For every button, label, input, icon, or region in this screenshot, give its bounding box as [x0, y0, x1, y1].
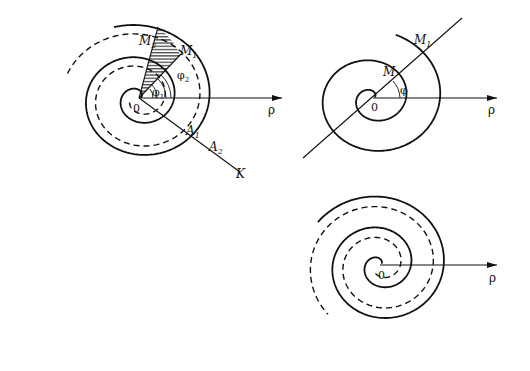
- arc-phi: [393, 81, 400, 98]
- a2-label: A2: [208, 140, 223, 156]
- diagram-top-right: 0 ρ M M1 φ: [303, 18, 497, 158]
- spiral-figure: 0 ρ M2 M1 φ1 φ2 A1 A2 K 0 ρ M M1 φ 0 ρ: [0, 0, 530, 371]
- phi-label: φ: [400, 84, 408, 97]
- rho-label: ρ: [488, 103, 495, 117]
- m1-label: M1: [179, 44, 197, 60]
- origin-label: 0: [378, 269, 385, 282]
- diagram-bottom-right: 0 ρ: [310, 197, 497, 318]
- phi1-label: φ1: [152, 86, 164, 101]
- rho-label: ρ: [489, 271, 496, 285]
- solid-spiral: [318, 197, 444, 318]
- origin-label: 0: [371, 101, 378, 114]
- k-label: K: [235, 167, 246, 181]
- diagram-left: 0 ρ M2 M1 φ1 φ2 A1 A2 K: [66, 25, 282, 181]
- figure-svg: 0 ρ M2 M1 φ1 φ2 A1 A2 K 0 ρ M M1 φ 0 ρ: [0, 0, 530, 371]
- phi2-label: φ2: [177, 69, 189, 84]
- ray-phi: [303, 18, 462, 158]
- a1-label: A1: [185, 124, 200, 140]
- rho-label: ρ: [268, 103, 275, 117]
- origin-label: 0: [133, 102, 140, 115]
- m1-label: M1: [413, 33, 431, 49]
- dashed-spiral: [310, 207, 433, 315]
- m-label: M: [382, 65, 396, 79]
